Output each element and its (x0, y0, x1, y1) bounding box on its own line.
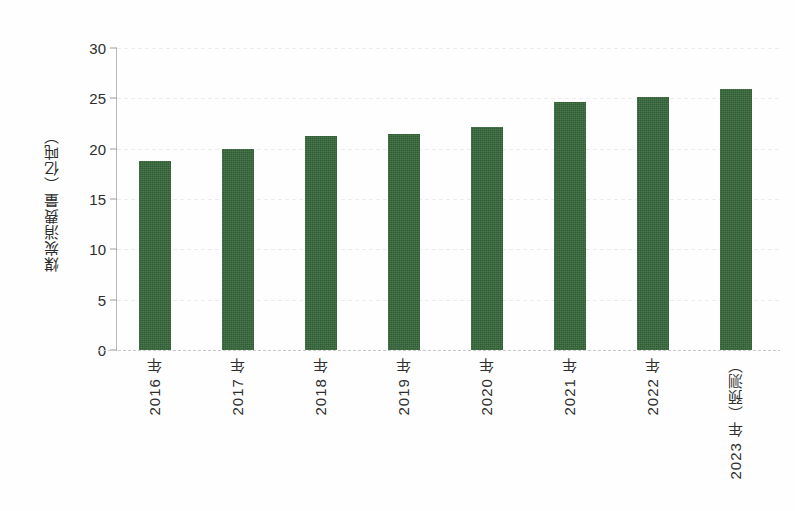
bar (637, 97, 669, 350)
y-axis-tick-mark (110, 98, 117, 99)
y-axis-tick-mark (110, 48, 117, 49)
x-axis-tick-label: 2017 年 (227, 357, 249, 419)
gridline (117, 48, 780, 49)
gridline (117, 300, 780, 301)
bar (388, 134, 420, 350)
x-axis-tick-label-text: 2022 年 (642, 357, 663, 416)
x-axis-tick-label-text: 2016 年 (144, 357, 165, 416)
y-axis-tick-label: 15 (60, 191, 106, 208)
x-axis-tick-label-text: 2018 年 (310, 357, 331, 416)
bar (305, 136, 337, 350)
y-axis-title-label: 煤炭消费量（亿吨） (41, 128, 62, 272)
bar (471, 127, 503, 350)
x-axis-tick-label: 2021 年 (559, 357, 581, 419)
x-axis-tick-label-text: 2021 年 (559, 357, 580, 416)
x-axis-tick-label: 2020 年 (476, 357, 498, 419)
x-axis-tick-label-text: 2023 年（预测） (725, 357, 746, 480)
y-axis-tick-label: 10 (60, 241, 106, 258)
x-axis-tick-label: 2019 年 (393, 357, 415, 419)
y-axis-tick-label: 5 (60, 291, 106, 308)
x-axis-tick-label: 2016 年 (144, 357, 166, 419)
bar (222, 149, 254, 350)
x-axis-tick-label: 2018 年 (310, 357, 332, 419)
y-axis-tick-label: 30 (60, 40, 106, 57)
bar (139, 161, 171, 350)
y-axis-tick-mark (110, 199, 117, 200)
y-axis-tick-mark (110, 299, 117, 300)
bar (720, 89, 752, 350)
gridline (117, 249, 780, 250)
gridline (117, 98, 780, 99)
x-axis-tick-label-text: 2019 年 (393, 357, 414, 416)
y-axis-tick-label: 20 (60, 140, 106, 157)
x-axis-tick-label-text: 2020 年 (476, 357, 497, 416)
y-axis-tick-label: 25 (60, 90, 106, 107)
plot-area (117, 48, 780, 350)
y-axis-tick-mark (110, 249, 117, 250)
x-axis-line (98, 350, 780, 351)
x-axis-tick-label: 2022 年 (642, 357, 664, 419)
bar (554, 102, 586, 350)
y-axis-tick-mark (110, 148, 117, 149)
gridline (117, 149, 780, 150)
gridline (117, 199, 780, 200)
coal-consumption-bar-chart: 煤炭消费量（亿吨） 051015202530 2016 年2017 年2018 … (0, 0, 795, 511)
x-axis-tick-label-text: 2017 年 (227, 357, 248, 416)
x-axis-tick-label: 2023 年（预测） (725, 357, 747, 483)
